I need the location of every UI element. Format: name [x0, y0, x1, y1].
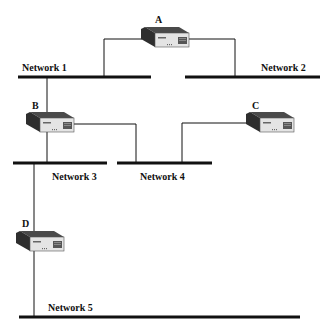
router-c-icon: [246, 112, 294, 132]
router-b-label: B: [32, 100, 39, 111]
router-b-icon: [26, 112, 74, 132]
router-a-icon: [141, 27, 189, 47]
network-4-label: Network 4: [140, 171, 185, 182]
network-1-label: Network 1: [22, 62, 67, 73]
network-2-bar: [185, 76, 320, 79]
router-c-label: C: [252, 100, 259, 111]
network-2-label: Network 2: [261, 62, 306, 73]
router-a-label: A: [155, 14, 163, 25]
network-diagram: A B C D Network 1 Network 2 Network 3 Ne…: [0, 0, 334, 331]
network-1-bar: [18, 76, 151, 79]
network-5-bar: [19, 316, 300, 319]
network-4-bar: [117, 162, 212, 165]
network-bars: [13, 76, 320, 319]
router-d-label: D: [22, 218, 29, 229]
network-3-bar: [13, 162, 107, 165]
network-5-label: Network 5: [48, 302, 93, 313]
router-d-icon: [16, 231, 64, 251]
network-3-label: Network 3: [52, 171, 97, 182]
